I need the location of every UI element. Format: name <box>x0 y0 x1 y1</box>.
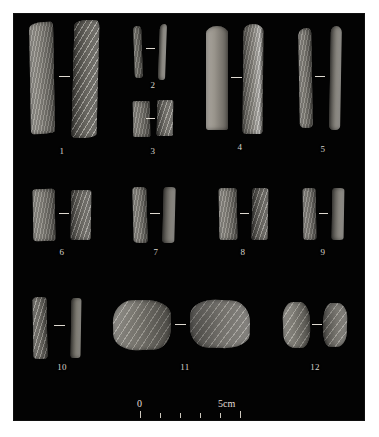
photo-plate: 123456789101112 0 5cm <box>14 14 364 420</box>
specimen-label-10: 10 <box>50 362 74 372</box>
specimen-label-7: 7 <box>144 247 168 257</box>
scale-bar-start-label: 0 <box>137 398 142 409</box>
specimen-7-view-2 <box>162 187 175 243</box>
specimen-label-12: 12 <box>303 362 327 372</box>
specimen-label-11: 11 <box>173 362 197 372</box>
specimen-2-view-2 <box>158 24 167 80</box>
specimen-11-view-1 <box>112 299 172 351</box>
specimen-shading <box>71 190 92 240</box>
specimen-5-view-2 <box>329 26 342 130</box>
specimen-7-view-1 <box>132 187 147 243</box>
pair-separator-dash <box>312 324 322 325</box>
specimen-8-view-1 <box>219 188 238 240</box>
specimen-3-view-2 <box>157 100 174 136</box>
scale-bar: 0 5cm <box>140 396 240 418</box>
specimen-shading <box>112 299 172 351</box>
specimen-shading <box>219 188 238 240</box>
pair-separator-dash <box>231 77 242 78</box>
specimen-label-9: 9 <box>311 247 335 257</box>
pair-separator-dash <box>59 213 69 214</box>
specimen-shading <box>303 188 317 240</box>
pair-separator-dash <box>319 213 328 214</box>
specimen-shading <box>332 188 345 240</box>
specimen-label-6: 6 <box>50 247 74 257</box>
scale-tick-1 <box>160 413 161 418</box>
scale-tick-4 <box>220 413 221 418</box>
specimen-10-view-2 <box>70 298 81 358</box>
specimen-label-1: 1 <box>50 146 74 156</box>
specimen-5-view-1 <box>298 28 313 128</box>
specimen-shading <box>322 303 348 348</box>
specimen-shading <box>29 22 55 134</box>
specimen-9-view-1 <box>303 188 317 240</box>
specimen-label-3: 3 <box>141 146 165 156</box>
specimen-shading <box>206 26 228 130</box>
specimen-2-view-1 <box>133 26 143 78</box>
specimen-shading <box>132 187 147 243</box>
specimen-label-5: 5 <box>311 144 335 154</box>
specimen-12-view-2 <box>322 303 348 348</box>
specimen-shading <box>162 187 175 243</box>
pair-separator-dash <box>59 76 70 77</box>
specimen-4-view-1 <box>206 26 228 130</box>
pair-separator-dash <box>315 76 325 77</box>
specimen-6-view-1 <box>33 189 56 241</box>
scale-tick-5 <box>240 411 241 418</box>
scale-tick-2 <box>180 413 181 418</box>
pair-separator-dash <box>146 118 155 119</box>
artifact-plate-figure: 123456789101112 0 5cm <box>0 0 379 437</box>
specimen-1-view-2 <box>71 20 99 139</box>
specimen-10-view-1 <box>32 297 47 359</box>
specimen-6-view-2 <box>71 190 92 240</box>
specimen-12-view-1 <box>282 302 311 349</box>
pair-separator-dash <box>175 324 186 325</box>
specimen-8-view-2 <box>252 188 269 240</box>
specimen-shading <box>282 302 311 349</box>
specimen-shading <box>32 297 47 359</box>
specimen-label-8: 8 <box>231 247 255 257</box>
specimen-shading <box>133 26 143 78</box>
specimen-shading <box>329 26 342 130</box>
pair-separator-dash <box>54 325 65 326</box>
specimen-shading <box>298 28 313 128</box>
specimen-shading <box>189 299 251 349</box>
specimen-shading <box>243 24 264 134</box>
pair-separator-dash <box>240 213 249 214</box>
scale-bar-end-label: 5cm <box>218 398 235 409</box>
specimen-9-view-2 <box>332 188 345 240</box>
specimen-shading <box>133 101 151 137</box>
specimen-4-view-2 <box>243 24 264 134</box>
scale-tick-3 <box>200 413 201 418</box>
pair-separator-dash <box>146 48 155 49</box>
specimen-label-4: 4 <box>228 142 252 152</box>
pair-separator-dash <box>150 213 160 214</box>
specimen-shading <box>157 100 174 136</box>
scale-tick-0 <box>140 411 141 418</box>
specimen-shading <box>70 298 81 358</box>
specimen-1-view-1 <box>29 22 55 134</box>
specimen-shading <box>71 20 99 139</box>
specimen-shading <box>158 24 167 80</box>
specimen-label-2: 2 <box>141 80 165 90</box>
specimen-3-view-1 <box>133 101 151 137</box>
specimen-11-view-2 <box>189 299 251 349</box>
specimen-shading <box>33 189 56 241</box>
specimen-shading <box>252 188 269 240</box>
